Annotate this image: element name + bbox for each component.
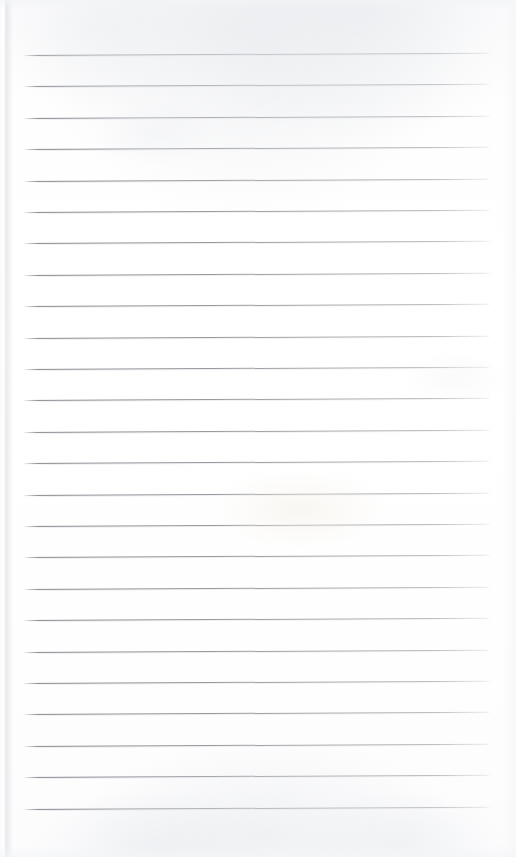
scanned-page (0, 0, 516, 857)
ruled-line (24, 430, 491, 433)
ruled-line (24, 116, 491, 119)
ruled-lines-group (0, 0, 516, 857)
ruled-line (24, 744, 491, 747)
page-top-edge-fade (0, 0, 516, 10)
ruled-line (24, 587, 491, 590)
ruled-line (24, 712, 491, 715)
ruled-line (24, 681, 491, 684)
ruled-line (24, 241, 491, 244)
ruled-line (24, 53, 491, 56)
page-left-edge-shadow (4, 0, 13, 857)
ruled-line (24, 650, 491, 653)
ruled-line (24, 524, 491, 527)
ruled-line (24, 493, 491, 496)
ruled-line (24, 367, 491, 370)
ruled-line (24, 807, 491, 810)
page-bottom-edge-fade (0, 845, 516, 857)
ruled-line (24, 304, 491, 307)
ruled-line (24, 618, 491, 621)
ruled-line (24, 179, 491, 182)
ruled-line (24, 336, 491, 339)
ruled-line (24, 84, 491, 87)
ruled-line (24, 210, 491, 213)
ruled-line (24, 273, 491, 276)
ruled-line (24, 775, 491, 778)
ruled-line (24, 461, 491, 464)
page-right-edge-fade (502, 0, 516, 857)
ruled-line (24, 147, 491, 150)
ruled-line (24, 398, 491, 401)
ruled-line (24, 555, 491, 558)
